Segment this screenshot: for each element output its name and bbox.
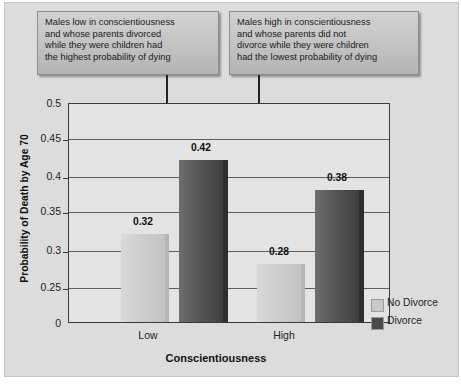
chart-figure: Males low in conscientiousness and whose… — [4, 2, 459, 377]
y-tick-1: 0.45 — [41, 132, 61, 144]
bar-side — [359, 190, 364, 322]
bar-low-divorce[interactable] — [179, 160, 223, 322]
bar-face — [257, 264, 301, 322]
bar-side — [301, 264, 305, 322]
plot-area: 0.32 0.42 0.28 0.38 — [68, 103, 390, 323]
y-tick-3: 0.35 — [41, 205, 61, 217]
y-tick-0: 0.5 — [46, 97, 61, 109]
bar-low-no-divorce[interactable] — [121, 234, 165, 322]
bar-high-no-divorce[interactable] — [257, 264, 301, 322]
y-tick-5: 0.25 — [41, 281, 61, 293]
bar-high-divorce[interactable] — [315, 190, 359, 322]
bar-face — [179, 160, 223, 322]
bar-value-low-no-divorce: 0.32 — [109, 216, 177, 227]
legend-label-divorce: Divorce — [387, 315, 422, 326]
legend-label-no-divorce: No Divorce — [387, 297, 438, 308]
bar-face — [121, 234, 165, 322]
bar-face — [315, 190, 359, 322]
x-tick-low: Low — [113, 329, 183, 341]
x-tick-high: High — [249, 329, 319, 341]
bar-side — [223, 160, 228, 322]
gridline-0.45 — [69, 139, 389, 140]
y-tick-2: 0.4 — [46, 170, 61, 182]
bar-value-low-divorce: 0.42 — [167, 142, 235, 153]
bar-value-high-divorce: 0.38 — [303, 172, 371, 183]
y-axis-tick-labels: 0.5 0.45 0.4 0.35 0.3 0.25 0 — [5, 103, 61, 323]
bar-value-high-no-divorce: 0.28 — [245, 246, 313, 257]
bar-side — [165, 234, 169, 322]
legend-swatch-divorce — [371, 317, 384, 330]
y-tick-6: 0 — [55, 317, 61, 329]
y-tick-4: 0.3 — [46, 244, 61, 256]
x-axis-title: Conscientiousness — [121, 352, 311, 364]
legend-swatch-no-divorce — [371, 299, 384, 312]
